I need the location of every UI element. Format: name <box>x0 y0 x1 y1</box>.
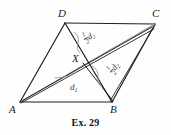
diagonal-label-d1: d1 <box>70 83 78 93</box>
figure-caption: Ex. 29 <box>0 117 171 128</box>
vertex-label-A: A <box>9 104 16 115</box>
geometry-figure: D C B A X 1 2 d2 1 2 d2 d1 Ex. 29 <box>0 0 171 135</box>
side-AD <box>20 23 65 102</box>
arc-d1-angle <box>55 72 76 78</box>
vertex-label-X: X <box>72 53 79 64</box>
diagonal-subscript-d1: 1 <box>75 87 78 93</box>
vertex-label-C: C <box>152 8 159 19</box>
vertex-label-B: B <box>110 104 117 115</box>
vertex-label-D: D <box>58 8 66 19</box>
geometry-diagram-svg <box>0 0 171 135</box>
side-DC <box>65 23 155 24</box>
